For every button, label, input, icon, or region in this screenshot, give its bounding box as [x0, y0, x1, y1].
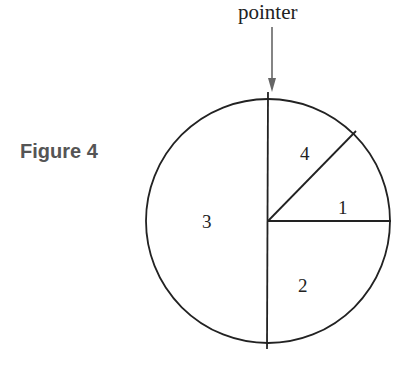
sector-1-label: 1 — [338, 197, 348, 218]
sector-4-label: 4 — [300, 143, 310, 164]
spinner-diagram: 3 4 1 2 — [0, 0, 410, 375]
sector-2-label: 2 — [298, 275, 308, 296]
pointer-arrow-icon — [268, 27, 276, 92]
sector-3-label: 3 — [202, 211, 212, 232]
